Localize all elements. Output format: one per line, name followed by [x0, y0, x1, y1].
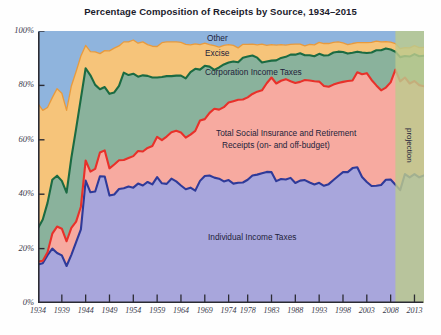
x-tick-label-1959: 1959 — [145, 306, 169, 315]
x-tick-label-1983: 1983 — [260, 306, 284, 315]
chart-figure: Percentage Composition of Receipts by So… — [0, 0, 441, 335]
x-tick-label-1988: 1988 — [283, 306, 307, 315]
y-tick-40: 40% — [0, 188, 38, 198]
projection-overlay-rect — [395, 31, 424, 303]
x-tick-label-2008: 2008 — [379, 306, 403, 315]
x-tick-label-2013: 2013 — [402, 306, 426, 315]
x-tick-label-2003: 2003 — [355, 306, 379, 315]
x-tick-label-1944: 1944 — [74, 306, 98, 315]
x-tick-label-1949: 1949 — [97, 306, 121, 315]
x-tick-label-1998: 1998 — [331, 306, 355, 315]
x-tick-label-1934: 1934 — [26, 306, 50, 315]
page-title: Percentage Composition of Receipts by So… — [0, 6, 441, 17]
y-tick-80: 80% — [0, 79, 38, 89]
x-tick-label-1954: 1954 — [121, 306, 145, 315]
series-label-individual: Individual Income Taxes — [208, 232, 296, 242]
y-tick-60: 60% — [0, 134, 38, 144]
series-label-other: Other — [207, 33, 228, 43]
x-tick-label-1978: 1978 — [236, 306, 260, 315]
series-label-social-insurance-line1: Total Social Insurance and Retirement — [216, 128, 356, 138]
x-tick-label-1969: 1969 — [193, 306, 217, 315]
y-tick-100: 100% — [0, 25, 38, 35]
x-tick-label-1993: 1993 — [307, 306, 331, 315]
x-tick-label-1964: 1964 — [169, 306, 193, 315]
y-tick-20: 20% — [0, 243, 38, 253]
series-label-corporation: Corporation Income Taxes — [205, 67, 302, 77]
projection-label: projection — [405, 128, 414, 163]
projection-band — [395, 31, 424, 303]
series-label-social-insurance-line2: Receipts (on- and off-budget) — [222, 140, 330, 150]
series-label-excise: Excise — [205, 48, 229, 58]
x-tick-label-1939: 1939 — [50, 306, 74, 315]
